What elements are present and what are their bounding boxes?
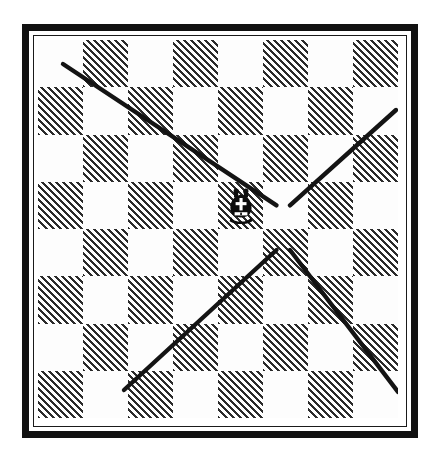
square-h2[interactable] [353,324,398,371]
square-c2[interactable] [128,324,173,371]
square-a4[interactable] [38,229,83,276]
square-c1[interactable] [128,371,173,418]
square-a8[interactable] [38,40,83,87]
square-g2[interactable] [308,324,353,371]
square-g5[interactable] [308,182,353,229]
square-e8[interactable] [218,40,263,87]
square-d6[interactable] [173,135,218,182]
diagram-caption: Chess bishop movement on an 8x8 board [0,0,1,1]
square-b5[interactable] [83,182,128,229]
square-a5[interactable] [38,182,83,229]
square-e2[interactable] [218,324,263,371]
square-b4[interactable] [83,229,128,276]
square-e3[interactable] [218,276,263,323]
square-f6[interactable] [263,135,308,182]
square-e6[interactable] [218,135,263,182]
square-h8[interactable] [353,40,398,87]
square-e7[interactable] [218,87,263,134]
diagram-outer-frame [22,24,418,438]
square-b8[interactable] [83,40,128,87]
square-f1[interactable] [263,371,308,418]
square-f5[interactable] [263,182,308,229]
diagram-inner-rule [33,35,407,427]
square-a1[interactable] [38,371,83,418]
square-f4[interactable] [263,229,308,276]
square-b7[interactable] [83,87,128,134]
square-c8[interactable] [128,40,173,87]
square-d8[interactable] [173,40,218,87]
square-f3[interactable] [263,276,308,323]
square-g8[interactable] [308,40,353,87]
square-h7[interactable] [353,87,398,134]
square-e1[interactable] [218,371,263,418]
square-c6[interactable] [128,135,173,182]
square-b3[interactable] [83,276,128,323]
square-c3[interactable] [128,276,173,323]
square-a2[interactable] [38,324,83,371]
square-h6[interactable] [353,135,398,182]
square-b2[interactable] [83,324,128,371]
square-c7[interactable] [128,87,173,134]
square-f8[interactable] [263,40,308,87]
square-g3[interactable] [308,276,353,323]
bishop-icon [227,187,255,225]
square-d2[interactable] [173,324,218,371]
square-a3[interactable] [38,276,83,323]
square-f7[interactable] [263,87,308,134]
square-h1[interactable] [353,371,398,418]
square-h4[interactable] [353,229,398,276]
bishop-piece [219,183,264,230]
square-g6[interactable] [308,135,353,182]
square-a6[interactable] [38,135,83,182]
square-h5[interactable] [353,182,398,229]
square-d4[interactable] [173,229,218,276]
square-g4[interactable] [308,229,353,276]
square-d7[interactable] [173,87,218,134]
square-c5[interactable] [128,182,173,229]
square-c4[interactable] [128,229,173,276]
square-b6[interactable] [83,135,128,182]
square-h3[interactable] [353,276,398,323]
square-d1[interactable] [173,371,218,418]
square-f2[interactable] [263,324,308,371]
square-d3[interactable] [173,276,218,323]
square-g7[interactable] [308,87,353,134]
square-e4[interactable] [218,229,263,276]
diagram-page: Chess bishop movement on an 8x8 board [0,0,448,470]
square-d5[interactable] [173,182,218,229]
square-g1[interactable] [308,371,353,418]
square-a7[interactable] [38,87,83,134]
square-b1[interactable] [83,371,128,418]
